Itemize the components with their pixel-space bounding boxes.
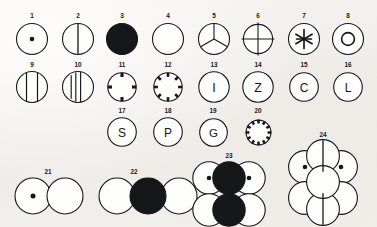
figure-12-circle-with-eight-notches bbox=[151, 70, 185, 104]
figure-2-circle-with-vertical-line bbox=[61, 22, 95, 56]
figure-label-8: 8 bbox=[338, 12, 357, 20]
figure-4-plain-circle bbox=[151, 22, 185, 56]
figure-19-circle-with-letter: G bbox=[198, 117, 229, 148]
figure-label-17: 17 bbox=[112, 107, 131, 115]
bead-bottom-center-solid bbox=[213, 194, 245, 226]
figure-label-22: 22 bbox=[124, 168, 143, 176]
figure-label-15: 15 bbox=[294, 61, 313, 69]
figure-16-circle-with-letter: L bbox=[332, 71, 364, 103]
figure-7-circle-with-asterisk bbox=[287, 22, 321, 56]
center-dot-icon-right bbox=[247, 176, 252, 181]
figure-label-21: 21 bbox=[38, 168, 57, 176]
figure-6-circle-with-cross bbox=[241, 22, 275, 56]
letter-glyph: I bbox=[212, 81, 215, 95]
figure-14-circle-with-letter: Z bbox=[241, 70, 275, 104]
letter-glyph: P bbox=[164, 126, 172, 140]
figure-label-19: 19 bbox=[203, 107, 222, 115]
figure-label-6: 6 bbox=[248, 12, 267, 20]
figure-10-circle-with-three-vertical-lines bbox=[61, 70, 95, 104]
figure-label-9: 9 bbox=[22, 61, 41, 69]
letter-glyph: G bbox=[209, 127, 218, 139]
figure-21-bead-pair bbox=[14, 176, 84, 216]
center-dot-icon-upper-right bbox=[339, 165, 344, 170]
figure-24-bead-rosette-seven bbox=[283, 140, 363, 220]
bead-center-solid bbox=[130, 178, 166, 214]
figure-plate: 1 2 3 4 5 6 bbox=[0, 0, 377, 227]
figure-8-concentric-ring-circle bbox=[331, 22, 365, 56]
figure-label-2: 2 bbox=[68, 12, 87, 20]
figure-label-4: 4 bbox=[158, 12, 177, 20]
figure-1-circle-with-center-dot bbox=[15, 22, 49, 56]
center-dot-icon-upper-left bbox=[303, 165, 308, 170]
figure-9-circle-with-two-vertical-lines bbox=[15, 70, 49, 104]
figure-label-23: 23 bbox=[219, 152, 238, 160]
center-dot-icon bbox=[31, 194, 36, 199]
letter-glyph: L bbox=[345, 81, 352, 95]
figure-5-circle-with-tri-radial-division bbox=[197, 22, 231, 56]
figure-label-20: 20 bbox=[248, 107, 267, 115]
figure-label-5: 5 bbox=[204, 12, 223, 20]
letter-glyph: C bbox=[300, 81, 309, 95]
figure-11-circle-with-four-notches bbox=[105, 70, 139, 104]
figure-15-circle-with-letter: C bbox=[288, 71, 320, 103]
figure-label-11: 11 bbox=[112, 61, 131, 69]
figure-label-7: 7 bbox=[294, 12, 313, 20]
figure-label-14: 14 bbox=[248, 61, 267, 69]
center-dot-icon-left bbox=[207, 176, 212, 181]
center-dot-icon bbox=[30, 37, 35, 42]
letter-glyph: Z bbox=[254, 81, 262, 95]
figure-20-circle-with-twelve-notches bbox=[243, 117, 274, 148]
figure-label-18: 18 bbox=[158, 107, 177, 115]
figure-label-10: 10 bbox=[68, 61, 87, 69]
inner-ring-icon bbox=[342, 33, 355, 46]
bead-top-center-solid bbox=[213, 162, 245, 194]
figure-label-24: 24 bbox=[313, 131, 332, 139]
letter-glyph: S bbox=[118, 126, 126, 140]
figure-label-12: 12 bbox=[158, 61, 177, 69]
figure-23-bead-cluster-six bbox=[192, 161, 266, 227]
bead-right bbox=[47, 178, 83, 214]
figure-label-1: 1 bbox=[22, 12, 41, 20]
figure-18-circle-with-letter: P bbox=[152, 116, 184, 148]
figure-3-solid-black-circle bbox=[105, 22, 139, 56]
figure-label-16: 16 bbox=[338, 61, 357, 69]
figure-17-circle-with-letter: S bbox=[106, 116, 138, 148]
figure-22-bead-triple bbox=[98, 176, 198, 216]
figure-label-13: 13 bbox=[204, 61, 223, 69]
figure-13-circle-with-letter: I bbox=[197, 70, 231, 104]
figure-label-3: 3 bbox=[112, 12, 131, 20]
